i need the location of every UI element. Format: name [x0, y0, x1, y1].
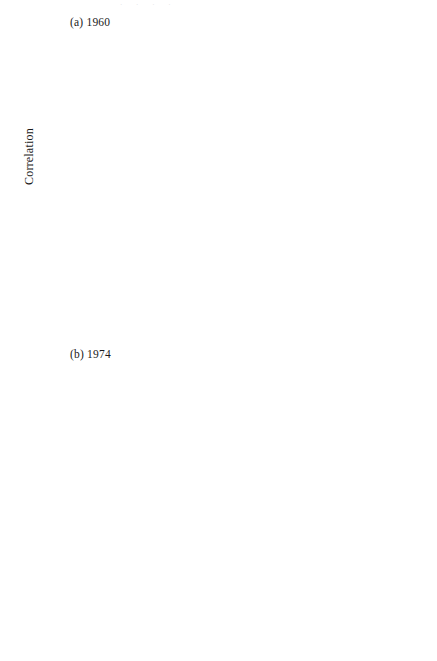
figure-page: · · · · (a) 1960 Correlation (b) 1974	[0, 0, 437, 661]
y-axis-label: Correlation	[22, 128, 37, 185]
panel-b-plot-area	[0, 331, 437, 661]
panel-a-plot-area: Correlation	[0, 0, 437, 330]
chart-panel-b: (b) 1974	[0, 331, 437, 661]
chart-panel-a: (a) 1960 Correlation	[0, 0, 437, 330]
